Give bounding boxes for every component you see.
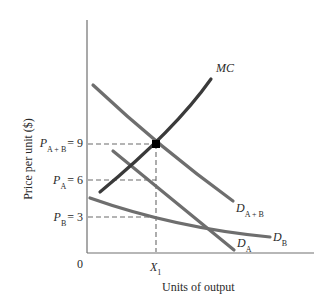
price-label-ab: PA + B= 9 — [39, 136, 83, 154]
public-good-diagram: MC DA + B DB DA PA + B= 9 PA= 6 PB= 3 0 … — [0, 0, 328, 305]
mc-label: MC — [215, 61, 235, 75]
origin-label: 0 — [77, 257, 83, 271]
x-axis-title: Units of output — [162, 280, 235, 294]
d-a-label: DA — [236, 236, 252, 254]
demand-curve-a-plus-b — [93, 85, 233, 201]
marginal-cost-curve — [100, 79, 211, 192]
y-axis-title: Price per unit ($) — [21, 118, 35, 200]
d-ab-label: DA + B — [235, 201, 264, 219]
x1-label: X1 — [149, 260, 161, 277]
price-label-a: PA= 6 — [52, 173, 83, 191]
price-label-b: PB= 3 — [53, 210, 83, 228]
d-b-label: DB — [272, 230, 287, 248]
equilibrium-point — [152, 140, 160, 148]
